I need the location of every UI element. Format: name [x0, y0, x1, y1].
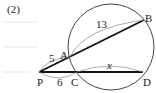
circle [68, 4, 154, 90]
secant-PB [39, 20, 144, 72]
length-label-PC: 6 [57, 77, 63, 88]
length-label-CD: x [107, 60, 112, 71]
point-label-D: D [143, 77, 151, 88]
point-label-C: C [71, 77, 78, 88]
point-label-P: P [37, 77, 43, 88]
point-label-A: A [60, 50, 68, 61]
point-label-B: B [145, 13, 152, 24]
length-label-AB: 13 [96, 19, 107, 30]
length-label-PA: 5 [49, 53, 55, 64]
